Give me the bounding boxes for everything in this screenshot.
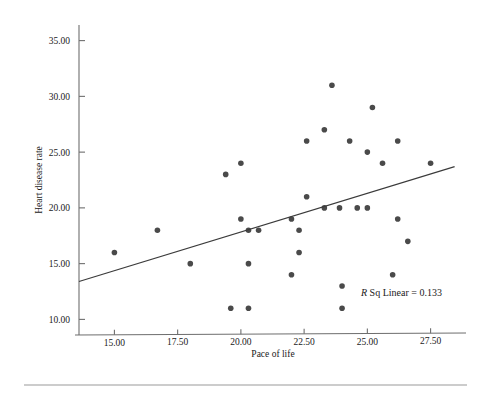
data-point <box>395 216 401 222</box>
data-point <box>228 305 234 311</box>
r-squared-value-text: Sq Linear = 0.133 <box>367 287 442 298</box>
data-point <box>395 138 401 144</box>
data-point <box>304 194 310 200</box>
x-axis-tick-labels: 15.0017.5020.0022.5025.0027.50 <box>104 336 442 348</box>
x-tick-label: 25.00 <box>357 337 379 347</box>
data-point <box>365 149 371 155</box>
x-tick-label: 20.00 <box>230 337 252 347</box>
data-point <box>155 227 161 233</box>
data-point <box>347 138 353 144</box>
plot-canvas: 15.0017.5020.0022.5025.0027.50 10.0015.0… <box>0 0 491 395</box>
data-point <box>329 82 335 88</box>
x-axis-line <box>75 333 466 335</box>
data-point <box>238 160 244 166</box>
data-point <box>339 305 345 311</box>
regression-line <box>79 167 455 282</box>
x-tick-label: 27.50 <box>420 336 442 346</box>
y-tick-label: 10.00 <box>49 315 71 325</box>
data-point <box>428 160 434 166</box>
y-axis-tick-labels: 10.0015.0020.0025.0030.0035.00 <box>49 36 71 325</box>
y-tick-label: 30.00 <box>49 92 71 102</box>
y-tick-label: 25.00 <box>49 148 71 158</box>
data-point <box>187 261 193 267</box>
data-point <box>256 227 262 233</box>
data-point <box>405 239 411 245</box>
y-tick-label: 15.00 <box>49 259 71 269</box>
x-tick-label: 22.50 <box>293 337 315 347</box>
data-point <box>390 272 396 278</box>
y-tick-label: 20.00 <box>49 203 71 213</box>
x-axis-title: Pace of life <box>251 349 294 359</box>
data-point <box>370 105 376 111</box>
data-point <box>354 205 360 211</box>
y-axis-title: Heart disease rate <box>34 146 44 214</box>
data-point <box>246 261 252 267</box>
data-point <box>304 138 310 144</box>
r-squared-annotation: R Sq Linear = 0.133 <box>360 287 442 298</box>
data-point <box>289 272 295 278</box>
x-tick-label: 17.50 <box>167 337 189 347</box>
data-point <box>112 250 118 256</box>
data-point <box>339 283 345 289</box>
data-point <box>296 227 302 233</box>
data-point <box>246 305 252 311</box>
data-point <box>380 160 386 166</box>
data-point <box>337 205 343 211</box>
scatter-plot-figure: 15.0017.5020.0022.5025.0027.50 10.0015.0… <box>0 0 491 395</box>
y-tick-label: 35.00 <box>49 36 71 46</box>
x-tick-label: 15.00 <box>104 338 126 348</box>
regression-line <box>79 167 455 282</box>
data-point <box>238 216 244 222</box>
data-points <box>112 82 434 311</box>
data-point <box>365 205 371 211</box>
data-point <box>296 250 302 256</box>
data-point <box>223 172 229 178</box>
r-symbol: R <box>360 287 367 298</box>
data-point <box>322 127 328 133</box>
